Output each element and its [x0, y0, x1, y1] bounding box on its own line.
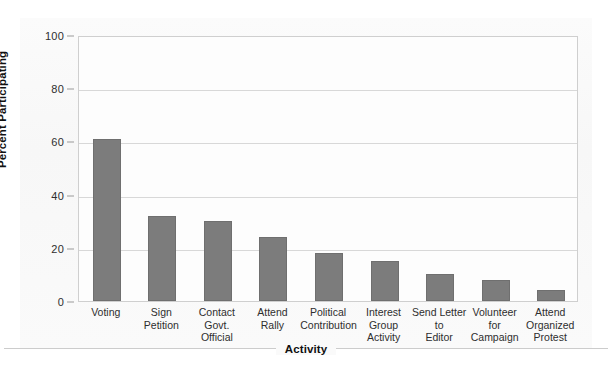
- y-tick-mark-60: [67, 142, 74, 143]
- x-tick-label: Political Contribution: [300, 306, 356, 331]
- gridline-60: [79, 143, 577, 144]
- y-tick-mark-0: [67, 302, 74, 303]
- x-axis-title-row: Activity: [0, 341, 612, 357]
- x-tick-label: Volunteer for Campaign: [467, 306, 523, 344]
- x-axis-title: Activity: [276, 343, 336, 355]
- y-axis-title: Percent Participating: [0, 51, 8, 168]
- bar: [537, 290, 565, 301]
- y-tick-label-80: 80: [51, 83, 64, 95]
- x-tick-label: Sign Petition: [134, 306, 190, 331]
- bar: [204, 221, 232, 301]
- gridline-40: [79, 197, 577, 198]
- bar: [426, 274, 454, 301]
- plot-area: [78, 36, 578, 302]
- bar: [371, 261, 399, 301]
- y-tick-label-60: 60: [51, 136, 64, 148]
- y-tick-label-100: 100: [45, 30, 64, 42]
- gridline-80: [79, 90, 577, 91]
- bar: [148, 216, 176, 301]
- x-tick-label: Attend Rally: [245, 306, 301, 331]
- bar: [93, 139, 121, 301]
- y-tick-mark-80: [67, 89, 74, 90]
- y-tick-label-20: 20: [51, 243, 64, 255]
- x-tick-label: Attend Organized Protest: [522, 306, 578, 344]
- y-tick-mark-100: [67, 36, 74, 37]
- x-tick-label: Send Letter to Editor: [411, 306, 467, 344]
- bar: [315, 253, 343, 301]
- x-tick-label: Contact Govt. Official: [189, 306, 245, 344]
- y-tick-mark-40: [67, 195, 74, 196]
- y-tick-label-40: 40: [51, 190, 64, 202]
- y-axis: 020406080100: [0, 0, 78, 377]
- x-tick-label: Interest Group Activity: [356, 306, 412, 344]
- x-tick-label: Voting: [78, 306, 134, 319]
- bar: [482, 280, 510, 301]
- bar-chart-figure: 020406080100 Percent Participating Votin…: [0, 0, 612, 377]
- y-tick-label-0: 0: [58, 296, 64, 308]
- y-tick-mark-20: [67, 248, 74, 249]
- bar: [259, 237, 287, 301]
